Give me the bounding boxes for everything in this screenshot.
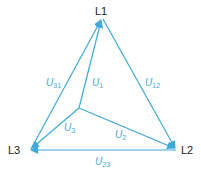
edge-label-u2: U2: [115, 129, 126, 141]
edge-u2: [79, 108, 174, 148]
diagram-canvas: L1 L2 L3 U12 U23 U31 U1 U2 U3: [0, 0, 201, 171]
node-label-l3: L3: [8, 144, 20, 156]
edge-label-u3: U3: [64, 122, 75, 134]
node-label-l2: L2: [181, 144, 193, 156]
edge-label-u12: U12: [145, 77, 160, 89]
edge-label-u31: U31: [46, 77, 61, 89]
edge-label-u1: U1: [92, 77, 103, 89]
edge-u12: [103, 19, 175, 148]
node-label-l1: L1: [95, 5, 107, 17]
voltage-triangle-diagram: L1 L2 L3 U12 U23 U31 U1 U2 U3: [0, 0, 201, 171]
edge-u1: [79, 21, 101, 108]
edge-label-u23: U23: [95, 156, 110, 168]
